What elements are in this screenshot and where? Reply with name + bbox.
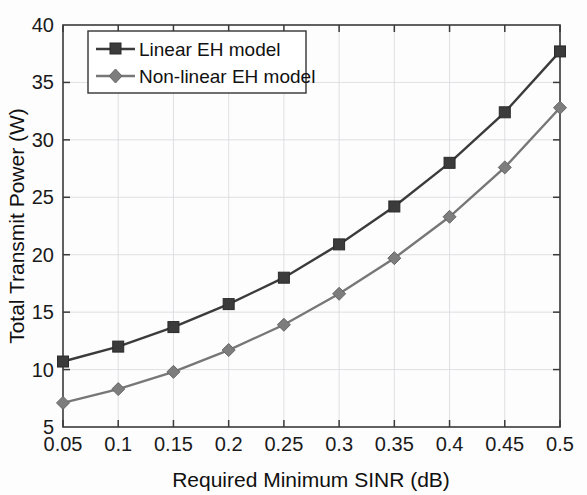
legend: Linear EH model Non-linear EH model	[88, 31, 315, 93]
data-point-marker-diamond	[112, 383, 125, 396]
x-tick-label: 0.2	[215, 433, 243, 455]
data-point-marker-square	[113, 341, 124, 352]
y-tick-label: 20	[32, 244, 54, 266]
y-tick-label: 40	[32, 14, 54, 36]
x-tick-label: 0.45	[485, 433, 524, 455]
x-axis-title: Required Minimum SINR (dB)	[172, 468, 450, 491]
data-point-marker-square	[444, 157, 455, 168]
data-point-marker-diamond	[167, 365, 180, 378]
series-line	[63, 51, 560, 361]
series-line	[63, 108, 560, 403]
data-point-marker-square	[168, 322, 179, 333]
data-point-marker-diamond	[222, 344, 235, 357]
data-point-marker-diamond	[333, 287, 346, 300]
x-tick-label: 0.35	[375, 433, 414, 455]
x-tick-label: 0.3	[325, 433, 353, 455]
data-point-marker-square	[223, 299, 234, 310]
x-tick-label: 0.1	[104, 433, 132, 455]
y-axis-title: Total Transmit Power (W)	[5, 108, 28, 344]
figure-canvas: 0.050.10.150.20.250.30.350.40.450.551015…	[0, 0, 587, 495]
data-point-marker-square	[334, 239, 345, 250]
data-point-marker-square	[278, 272, 289, 283]
y-tick-label: 25	[32, 186, 54, 208]
x-tick-label: 0.25	[264, 433, 303, 455]
series-0	[58, 46, 566, 367]
legend-label-0: Linear EH model	[139, 39, 281, 60]
x-tick-label: 0.15	[154, 433, 193, 455]
data-point-marker-diamond	[57, 396, 70, 409]
data-point-marker-square	[58, 356, 69, 367]
data-point-marker-diamond	[277, 318, 290, 331]
x-tick-label: 0.4	[436, 433, 464, 455]
legend-marker-square-icon	[110, 43, 121, 54]
data-point-marker-square	[499, 107, 510, 118]
series-1	[57, 101, 567, 409]
data-point-marker-square	[555, 46, 566, 57]
y-tick-label: 10	[32, 359, 54, 381]
y-tick-label: 30	[32, 129, 54, 151]
series-group	[57, 46, 567, 409]
legend-label-1: Non-linear EH model	[139, 66, 315, 87]
line-chart: 0.050.10.150.20.250.30.350.40.450.551015…	[0, 0, 587, 495]
data-point-marker-square	[389, 201, 400, 212]
x-tick-label: 0.5	[546, 433, 574, 455]
y-tick-label: 35	[32, 71, 54, 93]
y-tick-label: 5	[43, 416, 54, 438]
y-tick-label: 15	[32, 301, 54, 323]
